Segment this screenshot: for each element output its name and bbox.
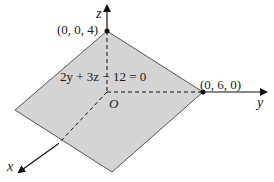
y-axis-label: y (257, 96, 263, 110)
z-intercept-label: (0, 0, 4) (57, 23, 98, 36)
plane-equation-label: 2y + 3z − 12 = 0 (60, 70, 146, 83)
z-axis-label: z (96, 7, 101, 21)
x-axis (19, 144, 58, 172)
y-intercept-label: (0, 6, 0) (200, 78, 241, 91)
origin-label: O (109, 97, 118, 110)
z-intercept-point (105, 29, 110, 34)
plane-diagram: z (0, 0, 4) 2y + 3z − 12 = 0 (0, 6, 0) y… (0, 0, 274, 182)
x-axis-label: x (7, 160, 13, 174)
